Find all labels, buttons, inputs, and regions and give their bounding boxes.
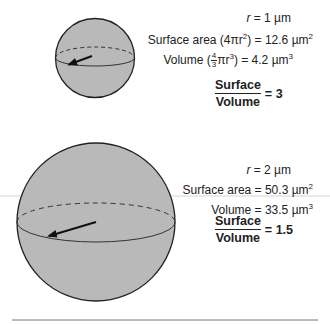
large-radius-label: r = 2 µm: [246, 163, 291, 177]
small-radius-label: r = 1 µm: [246, 11, 291, 25]
large-surface-area-label: Surface area = 50.3 µm2: [183, 183, 313, 197]
small-volume-label: Volume (43πr3) = 4.2 µm3: [163, 52, 293, 69]
small-ratio: Surface Volume = 3: [215, 78, 283, 110]
small-sphere: [56, 19, 135, 98]
small-surface-area-label: Surface area (4πr2) = 12.6 µm2: [148, 33, 313, 47]
large-sphere: [17, 143, 175, 301]
sphere-diagram: [0, 0, 330, 324]
large-ratio: Surface Volume = 1.5: [215, 214, 293, 246]
